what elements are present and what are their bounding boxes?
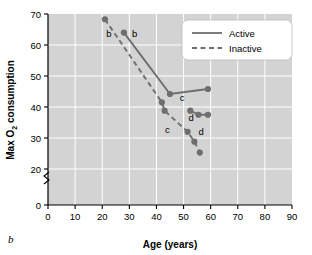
data-point-inactive — [161, 108, 167, 114]
legend-box — [182, 20, 292, 60]
legend-label-active: Active — [229, 28, 255, 39]
y-tick-label: 30 — [30, 133, 41, 144]
y-tick-label: 0 — [36, 200, 41, 211]
point-annotation: b — [132, 28, 137, 39]
chart-figure: bbccdd 0102030405060708090 0203040506070… — [0, 0, 312, 255]
y-tick-label: 50 — [30, 71, 41, 82]
point-annotation: c — [165, 124, 170, 135]
y-tick-label: 40 — [30, 102, 41, 113]
legend: Active Inactive — [182, 20, 292, 60]
x-tick-label: 0 — [45, 211, 50, 222]
x-tick-label: 60 — [205, 211, 216, 222]
data-point-inactive — [197, 149, 203, 155]
data-point-active — [205, 86, 211, 92]
y-tick-label: 20 — [30, 164, 41, 175]
y-tick-label: 60 — [30, 40, 41, 51]
data-point-active — [205, 112, 211, 118]
x-tick-label: 40 — [151, 211, 162, 222]
x-tick-label: 70 — [232, 211, 243, 222]
x-tick-label: 10 — [70, 211, 81, 222]
data-point-active — [167, 91, 173, 97]
x-axis-title: Age (years) — [143, 239, 197, 250]
data-point-active — [121, 29, 127, 35]
data-point-inactive — [191, 139, 197, 145]
legend-label-inactive: Inactive — [229, 43, 262, 54]
data-point-inactive — [185, 129, 191, 135]
data-point-inactive — [102, 16, 108, 22]
data-point-inactive — [159, 99, 165, 105]
point-annotation: d — [188, 112, 193, 123]
x-tick-label: 80 — [260, 211, 271, 222]
x-tick-label: 20 — [97, 211, 108, 222]
point-annotation: b — [106, 28, 111, 39]
data-point-active — [195, 112, 201, 118]
x-tick-label: 50 — [178, 211, 189, 222]
point-annotation: c — [180, 92, 185, 103]
point-annotation: d — [199, 126, 204, 137]
x-tick-label: 90 — [287, 211, 298, 222]
figure-letter: b — [8, 233, 14, 245]
y-tick-label: 70 — [30, 9, 41, 20]
x-tick-label: 30 — [124, 211, 135, 222]
